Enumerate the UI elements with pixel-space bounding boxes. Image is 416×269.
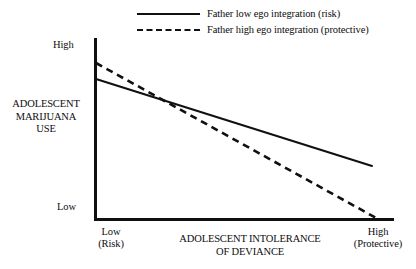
series-line-father-high-ego-integration: [96, 63, 378, 219]
x-axis-tick-low-primary: Low: [88, 226, 134, 238]
x-axis-title: ADOLESCENT INTOLERANCE OF DEVIANCE: [160, 233, 340, 258]
y-axis-title: ADOLESCENT MARIJUANA USE: [0, 98, 92, 136]
y-axis-tick-label-low: Low: [57, 201, 76, 213]
series-line-father-low-ego-integration: [96, 79, 372, 166]
y-axis-title-line-2: MARIJUANA: [0, 111, 92, 124]
figure-root: Father low ego integration (risk) Father…: [0, 0, 416, 269]
x-axis-title-line-1: ADOLESCENT INTOLERANCE: [160, 233, 340, 246]
x-axis-title-line-2: OF DEVIANCE: [160, 246, 340, 259]
y-axis-title-line-1: ADOLESCENT: [0, 98, 92, 111]
x-axis-tick-label-low: Low (Risk): [88, 226, 134, 250]
y-axis-title-line-3: USE: [0, 123, 92, 136]
x-axis-tick-low-sublabel: (Risk): [88, 238, 134, 250]
x-axis-tick-label-high: High (Protective): [344, 226, 412, 250]
y-axis-tick-label-high: High: [53, 39, 74, 51]
x-axis-tick-high-sublabel: (Protective): [344, 238, 412, 250]
x-axis-tick-high-primary: High: [344, 226, 412, 238]
